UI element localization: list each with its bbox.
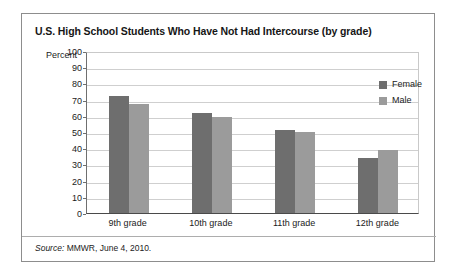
y-axis-tick-mark [83,149,86,150]
y-axis-tick-mark [83,133,86,134]
legend-item-male: Male [379,94,441,107]
bar-group [275,53,315,213]
x-axis-tick-label: 9th grade [109,218,147,228]
bar-male [378,150,398,213]
bar-group [358,53,398,213]
source-label: Source: [35,243,64,253]
y-axis-tick-label: 70 [58,96,82,105]
y-axis-tick-label: 80 [58,80,82,89]
y-axis-tick-mark [83,165,86,166]
legend-swatch-male-icon [379,97,387,105]
y-axis-tick-mark [83,182,86,183]
chart-plot-wrapper: Percent 1009080706050403020100 Female Ma… [22,14,436,263]
bar-group [192,53,232,213]
y-axis-tick-mark [83,117,86,118]
bar-male [295,132,315,213]
y-axis-tick-label: 40 [58,145,82,154]
x-axis-tick-label: 10th grade [189,218,232,228]
legend-label-male: Male [392,96,412,105]
y-axis-tick-mark [83,68,86,69]
y-axis-tick-mark [83,101,86,102]
source-value: MMWR, June 4, 2010. [64,243,151,253]
y-axis-tick-label: 90 [58,64,82,73]
bar-male [129,104,149,213]
y-axis-tick-mark [83,84,86,85]
chart-legend: Female Male [379,78,441,110]
footer-divider [22,236,436,237]
y-axis-tick-label: 20 [58,177,82,186]
x-axis-tick-label: 12th grade [356,218,399,228]
bar-female [109,96,129,213]
y-axis-tick-label: 60 [58,112,82,121]
bar-male [212,117,232,213]
y-axis-tick-label: 30 [58,161,82,170]
y-axis-tick-mark [83,52,86,53]
plot-area: Female Male [86,52,419,214]
bar-group [109,53,149,213]
y-axis-tick-mark [83,214,86,215]
y-axis-tick-labels: 1009080706050403020100 [56,52,82,214]
legend-label-female: Female [392,80,422,89]
y-axis-tick-label: 50 [58,129,82,138]
figure-card: U.S. High School Students Who Have Not H… [21,13,435,262]
legend-swatch-female-icon [379,81,387,89]
source-note: Source: MMWR, June 4, 2010. [35,243,151,253]
x-axis-tick-label: 11th grade [273,218,315,228]
y-axis-tick-mark [83,198,86,199]
bar-female [192,113,212,213]
bar-female [358,158,378,213]
y-axis-tick-label: 10 [58,193,82,202]
legend-item-female: Female [379,78,441,91]
y-axis-tick-label: 0 [58,210,82,219]
y-axis-tick-label: 100 [58,48,82,57]
bar-female [275,130,295,213]
